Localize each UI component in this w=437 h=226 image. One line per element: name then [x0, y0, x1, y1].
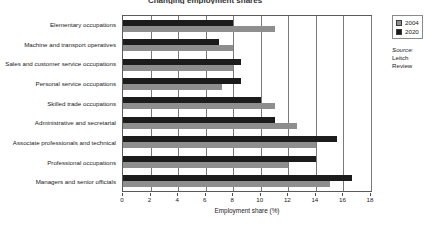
category-label: Personal service occupations	[0, 75, 119, 92]
bar-group	[123, 153, 371, 170]
category-label: Sales and customer service occupations	[0, 56, 119, 73]
chart-title: Changing employment shares	[60, 0, 350, 4]
bar-2004	[123, 103, 275, 109]
category-label: Managers and senior officials	[0, 174, 119, 191]
category-label: Elementary occupations	[0, 16, 119, 33]
bar-2004	[123, 123, 297, 129]
bar-group	[123, 95, 371, 112]
source-label: Source:	[392, 46, 413, 54]
bar-rows	[123, 16, 371, 191]
bar-2004	[123, 84, 222, 90]
x-tick-label: 6	[203, 196, 206, 203]
bar-group	[123, 114, 371, 131]
legend: 2004 2020	[392, 15, 423, 39]
x-tick-label: 16	[339, 196, 346, 203]
bar-2004	[123, 162, 288, 168]
legend-label: 2004	[405, 18, 419, 27]
x-tick-label: 12	[284, 196, 291, 203]
legend-item-2004: 2004	[396, 18, 419, 27]
x-tick-label: 10	[256, 196, 263, 203]
bar-group	[123, 17, 371, 34]
legend-swatch-icon	[396, 20, 402, 26]
bar-2004	[123, 65, 233, 71]
x-tick-label: 8	[230, 196, 233, 203]
x-axis-title: Employment share (%)	[122, 207, 372, 214]
legend-swatch-icon	[396, 29, 402, 35]
bar-2004	[123, 142, 316, 148]
source-line-1: Leitch	[392, 54, 413, 62]
bar-group	[123, 56, 371, 73]
x-axis-ticks: 024681012141618	[122, 193, 372, 203]
gridline	[371, 16, 372, 191]
category-label: Skilled trade occupations	[0, 95, 119, 112]
employment-share-chart: Changing employment shares Elementary oc…	[0, 0, 437, 226]
source-note: Source: Leitch Review	[392, 46, 413, 70]
x-tick-label: 18	[367, 196, 374, 203]
bar-group	[123, 37, 371, 54]
bar-2004	[123, 181, 330, 187]
bar-group	[123, 134, 371, 151]
category-label: Associate professionals and technical	[0, 134, 119, 151]
x-tick-label: 0	[120, 196, 123, 203]
bar-2004	[123, 26, 275, 32]
category-label: Administrative and secretarial	[0, 115, 119, 132]
source-line-2: Review	[392, 62, 413, 70]
x-tick-label: 14	[311, 196, 318, 203]
legend-item-2020: 2020	[396, 27, 419, 36]
bar-group	[123, 76, 371, 93]
plot-area	[122, 15, 372, 192]
category-label: Machine and transport operatives	[0, 36, 119, 53]
category-label: Professional occupations	[0, 154, 119, 171]
x-tick-label: 4	[175, 196, 178, 203]
legend-label: 2020	[405, 27, 419, 36]
bar-2004	[123, 45, 233, 51]
category-axis-labels: Elementary occupations Machine and trans…	[0, 15, 119, 192]
x-tick-label: 2	[148, 196, 151, 203]
bar-group	[123, 173, 371, 190]
